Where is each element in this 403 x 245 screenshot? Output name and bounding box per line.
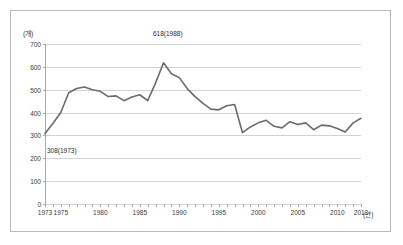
chart-figure: (개) 0100200300400500600700 1973197519801…: [10, 10, 391, 232]
x-axis-tick-mark: [282, 204, 283, 207]
x-axis-tick-mark: [361, 204, 362, 207]
x-axis-tick-mark: [227, 204, 228, 207]
x-axis-tick-mark: [171, 204, 172, 207]
x-axis-tick-mark: [345, 204, 346, 207]
x-axis-tick-label: 1990: [172, 209, 186, 216]
x-axis-tick-mark: [179, 204, 180, 207]
y-axis-tick-label: 700: [30, 41, 41, 48]
x-axis-tick-mark: [337, 204, 338, 207]
x-axis-tick-label: 1985: [133, 209, 147, 216]
x-axis-tick-mark: [85, 204, 86, 207]
x-axis-tick-mark: [61, 204, 62, 207]
annotation-start: 308(1973): [47, 147, 77, 154]
annotation-peak: 618(1988): [153, 30, 183, 37]
x-axis-unit-label: (년): [363, 209, 373, 219]
x-axis-tick-mark: [195, 204, 196, 207]
x-axis-tick-mark: [353, 204, 354, 207]
x-axis-tick-mark: [274, 204, 275, 207]
x-axis-tick-label: 2010: [330, 209, 344, 216]
y-axis-tick-label: 200: [30, 155, 41, 162]
x-axis-tick-mark: [203, 204, 204, 207]
x-axis-tick-mark: [298, 204, 299, 207]
y-axis-tick-label: 600: [30, 63, 41, 70]
x-axis-tick-mark: [290, 204, 291, 207]
x-axis-tick-label: 1975: [54, 209, 68, 216]
x-axis-tick-mark: [53, 204, 54, 207]
x-axis-tick-mark: [69, 204, 70, 207]
x-axis-tick-label: 2000: [251, 209, 265, 216]
x-axis-tick-mark: [258, 204, 259, 207]
x-axis-tick-mark: [266, 204, 267, 207]
y-axis-tick-label: 400: [30, 109, 41, 116]
x-axis-tick-mark: [45, 204, 46, 207]
x-axis-tick-mark: [124, 204, 125, 207]
x-axis-tick-mark: [164, 204, 165, 207]
series-line: [45, 44, 361, 204]
x-axis-tick-mark: [92, 204, 93, 207]
x-axis-tick-mark: [314, 204, 315, 207]
x-axis-tick-label: 2005: [291, 209, 305, 216]
x-axis-tick-label: 1973: [38, 209, 52, 216]
x-axis-tick-mark: [329, 204, 330, 207]
x-axis-tick-label: 1995: [212, 209, 226, 216]
x-axis-tick-mark: [108, 204, 109, 207]
y-axis-tick-label: 0: [37, 201, 41, 208]
plot-area: 0100200300400500600700 19731975198019851…: [45, 44, 361, 204]
x-axis-tick-mark: [243, 204, 244, 207]
x-axis-tick-mark: [77, 204, 78, 207]
x-axis-tick-mark: [100, 204, 101, 207]
y-axis-tick-label: 100: [30, 178, 41, 185]
x-axis-tick-mark: [235, 204, 236, 207]
x-axis-tick-mark: [140, 204, 141, 207]
x-axis-tick-mark: [156, 204, 157, 207]
x-axis-tick-mark: [116, 204, 117, 207]
x-axis-tick-mark: [211, 204, 212, 207]
y-axis-tick-label: 300: [30, 132, 41, 139]
x-axis-tick-mark: [219, 204, 220, 207]
y-axis-tick-label: 500: [30, 86, 41, 93]
x-axis-tick-mark: [148, 204, 149, 207]
x-axis-tick-mark: [132, 204, 133, 207]
x-axis-tick-mark: [322, 204, 323, 207]
x-axis-tick-mark: [187, 204, 188, 207]
x-axis-tick-mark: [306, 204, 307, 207]
x-axis-tick-label: 1980: [93, 209, 107, 216]
x-axis-tick-mark: [250, 204, 251, 207]
y-axis-unit-label: (개): [23, 28, 33, 38]
